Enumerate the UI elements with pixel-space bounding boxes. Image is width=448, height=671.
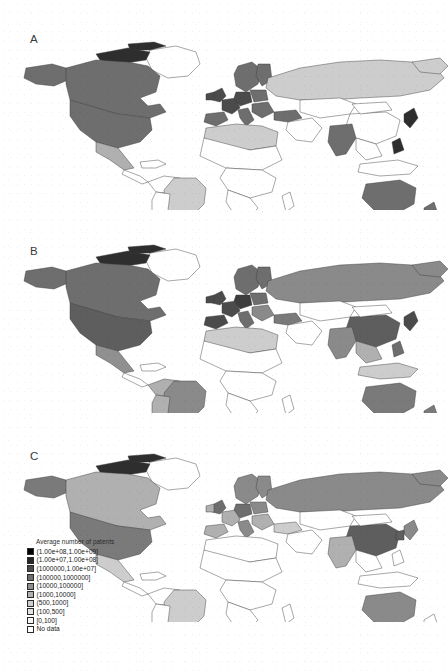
madagascar-a [282, 192, 294, 210]
legend-swatch-4 [27, 574, 34, 581]
world-map-b [0, 241, 448, 413]
india-c [328, 536, 356, 568]
japan-a [404, 108, 418, 128]
philippines-c [392, 550, 404, 566]
legend-swatch-1 [27, 548, 34, 555]
spain-b [204, 315, 228, 329]
legend-label-9: [0,100] [37, 617, 57, 625]
australia-c [362, 592, 416, 622]
brazil-a [164, 178, 206, 210]
world-map-a [0, 38, 448, 210]
australia-b [362, 383, 416, 413]
andes-a [152, 192, 170, 210]
alaska-c [24, 476, 68, 498]
legend-label-3: (1000000,1.00e+07] [37, 565, 97, 573]
poland-b [250, 293, 268, 305]
alaska-b [24, 267, 68, 289]
madagascar-c [282, 604, 294, 622]
panel-c: C [0, 410, 448, 671]
legend-swatch-10 [27, 626, 34, 633]
india-b [328, 327, 356, 359]
indonesia-a [358, 160, 418, 176]
legend-swatch-5 [27, 583, 34, 590]
legend-label-8: (100,500] [37, 608, 65, 616]
japan-c [404, 520, 418, 540]
legend-item: (1.00e+08,1.00e+09] [27, 548, 155, 557]
legend-swatch-8 [27, 608, 34, 615]
legend-title: Average number of patents [36, 538, 155, 546]
japan-b [404, 311, 418, 331]
caribbean-b [140, 363, 166, 371]
map-legend: Average number of patents (1.00e+08,1.00… [27, 538, 155, 633]
ireland-a [206, 92, 214, 100]
new-zealand-c [424, 614, 438, 622]
legend-item: No data [27, 625, 155, 634]
middle-east-a [286, 118, 322, 142]
india-a [328, 124, 356, 156]
panel-b: B [0, 215, 448, 410]
panel-a: A [0, 0, 448, 215]
legend-label-2: (1.00e+07,1.00e+08] [37, 556, 99, 564]
legend-label-1: (1.00e+08,1.00e+09] [37, 548, 99, 556]
legend-item: (10000,100000] [27, 582, 155, 591]
legend-label-10: No data [37, 625, 60, 633]
new-zealand-a [424, 202, 438, 210]
figure-patent-world-maps: A [0, 0, 448, 671]
caribbean-a [140, 160, 166, 168]
central-asia-a [300, 98, 356, 118]
spain-a [204, 112, 228, 126]
legend-swatch-7 [27, 600, 34, 607]
brazil-c [164, 590, 206, 622]
poland-c [250, 502, 268, 514]
landmasses-b [24, 245, 448, 413]
legend-item: (1000,10000] [27, 590, 155, 599]
legend-item: (1.00e+07,1.00e+08] [27, 556, 155, 565]
brazil-b [164, 381, 206, 413]
alaska-a [24, 64, 68, 86]
legend-swatch-3 [27, 565, 34, 572]
legend-label-5: (10000,100000] [37, 582, 83, 590]
central-asia-b [300, 301, 356, 321]
philippines-a [392, 138, 404, 154]
balkans-c [252, 514, 274, 530]
legend-item: (1000000,1.00e+07] [27, 565, 155, 574]
legend-item: (500,1000] [27, 599, 155, 608]
landmasses-a [24, 42, 448, 210]
central-asia-c [300, 510, 356, 530]
legend-swatch-9 [27, 617, 34, 624]
panel-b-map [0, 241, 448, 413]
philippines-b [392, 341, 404, 357]
central-america-a [122, 170, 148, 184]
legend-label-4: (100000,1000000] [37, 574, 91, 582]
italy-b [238, 311, 254, 329]
legend-items: (1.00e+08,1.00e+09] (1.00e+07,1.00e+08] … [27, 548, 155, 634]
ireland-c [206, 504, 214, 512]
balkans-a [252, 102, 274, 118]
indonesia-c [358, 572, 418, 588]
legend-label-6: (1000,10000] [37, 591, 76, 599]
middle-east-b [286, 321, 322, 345]
legend-swatch-2 [27, 557, 34, 564]
panel-a-map [0, 38, 448, 210]
italy-c [238, 520, 254, 538]
australia-a [362, 180, 416, 210]
central-america-b [122, 373, 148, 387]
legend-item: (100,500] [27, 608, 155, 617]
legend-item: [0,100] [27, 616, 155, 625]
middle-east-c [286, 530, 322, 554]
korea-c [396, 530, 404, 540]
poland-a [250, 90, 268, 102]
spain-c [204, 524, 228, 538]
legend-swatch-6 [27, 591, 34, 598]
ireland-b [206, 295, 214, 303]
legend-label-7: (500,1000] [37, 599, 69, 607]
legend-item: (100000,1000000] [27, 573, 155, 582]
italy-a [238, 108, 254, 126]
balkans-b [252, 305, 274, 321]
indonesia-b [358, 363, 418, 379]
